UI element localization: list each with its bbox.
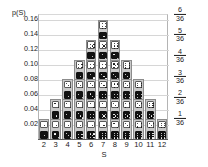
fraction-numerator: 5	[174, 27, 186, 35]
die-pip	[114, 43, 115, 44]
die-pip	[117, 117, 118, 118]
die-face-2-black	[52, 131, 59, 138]
fraction-numerator: 2	[174, 89, 186, 97]
die-pip	[129, 83, 130, 84]
die-pip	[125, 63, 126, 64]
die-pip	[117, 127, 118, 128]
die-face-5-white	[123, 81, 130, 88]
die-pip	[149, 127, 150, 128]
fraction-denominator: 36	[174, 118, 186, 127]
die-pip	[105, 87, 106, 88]
die-pip	[141, 123, 142, 124]
fraction-numerator: 6	[174, 6, 186, 14]
die-pip	[151, 125, 152, 126]
die-pip	[117, 94, 118, 95]
die-face-5-black	[87, 131, 94, 138]
bar-sum-7[interactable]	[98, 14, 109, 139]
die-pip	[114, 135, 115, 136]
dice-pair-cell	[86, 40, 97, 61]
die-pip	[102, 47, 103, 48]
die-pip	[117, 133, 118, 134]
die-pip	[54, 133, 55, 134]
die-pip	[141, 94, 142, 95]
bar-sum-2[interactable]	[39, 118, 50, 139]
die-pip	[78, 134, 79, 135]
bar-sum-4[interactable]	[62, 76, 73, 139]
die-face-3-black	[76, 111, 83, 118]
die-pip	[125, 133, 126, 134]
fraction-denominator: 36	[174, 55, 186, 64]
die-pip	[137, 83, 138, 84]
die-pip	[129, 67, 130, 68]
bar-sum-6[interactable]	[86, 35, 97, 139]
die-face-3-white	[111, 101, 118, 108]
die-pip	[127, 115, 128, 116]
die-pip	[70, 107, 71, 108]
die-pip	[66, 133, 67, 134]
die-face-1-black	[99, 32, 106, 39]
dice-pair-cell	[110, 60, 121, 81]
bar-sum-8[interactable]	[110, 35, 121, 139]
die-pip	[137, 107, 138, 108]
die-face-6-white	[158, 121, 165, 128]
die-face-5-black	[123, 111, 130, 118]
right-axis-fraction: 136	[174, 110, 186, 126]
die-pip	[101, 74, 102, 75]
die-face-1-black	[64, 91, 71, 98]
die-pip	[141, 107, 142, 108]
die-face-5-white	[147, 121, 154, 128]
die-pip	[90, 103, 91, 104]
die-pip	[105, 47, 106, 48]
die-pip	[164, 133, 165, 134]
die-pip	[125, 107, 126, 108]
die-face-3-black	[64, 131, 71, 138]
dice-pair-cell	[86, 99, 97, 120]
dice-pair-cell	[121, 119, 132, 140]
bars-container	[38, 14, 168, 139]
die-pip	[152, 135, 153, 136]
bar-sum-10[interactable]	[133, 76, 144, 139]
right-axis-fraction: 336	[174, 68, 186, 84]
right-axis-fraction: 636	[174, 6, 186, 22]
die-pip	[149, 114, 150, 115]
die-face-6-white	[99, 21, 106, 28]
die-pip	[82, 107, 83, 108]
die-face-2-black	[64, 111, 71, 118]
die-pip	[103, 85, 104, 86]
dice-pair-cell	[121, 60, 132, 81]
bar-sum-11[interactable]	[145, 97, 156, 139]
bar-sum-12[interactable]	[157, 118, 168, 139]
die-pip	[82, 87, 83, 88]
die-pip	[117, 58, 118, 59]
bar-sum-3[interactable]	[50, 97, 61, 139]
dice-pair-cell	[74, 99, 85, 120]
die-pip	[103, 36, 104, 37]
bar-sum-9[interactable]	[121, 56, 132, 139]
die-face-6-black	[123, 131, 130, 138]
die-pip	[115, 105, 116, 106]
y-tick-label: 0.10	[24, 60, 38, 67]
die-pip	[149, 105, 150, 106]
die-pip	[102, 64, 103, 65]
die-pip	[151, 115, 152, 116]
die-pip	[161, 135, 162, 136]
die-pip	[137, 114, 138, 115]
die-face-4-black	[123, 91, 130, 98]
die-pip	[129, 78, 130, 79]
die-pip	[105, 117, 106, 118]
bar-sum-5[interactable]	[74, 56, 85, 139]
die-pip	[44, 135, 45, 136]
die-face-1-white	[76, 121, 83, 128]
die-pip	[102, 103, 103, 104]
die-face-4-white	[76, 61, 83, 68]
die-pip	[90, 83, 91, 84]
die-face-3-white	[87, 81, 94, 88]
die-pip	[161, 133, 162, 134]
die-pip	[153, 123, 154, 124]
die-face-6-black	[135, 131, 142, 138]
fraction-denominator: 36	[174, 76, 186, 85]
die-face-1-white	[99, 121, 106, 128]
die-pip	[125, 67, 126, 68]
die-pip	[105, 114, 106, 115]
die-pip	[78, 94, 79, 95]
